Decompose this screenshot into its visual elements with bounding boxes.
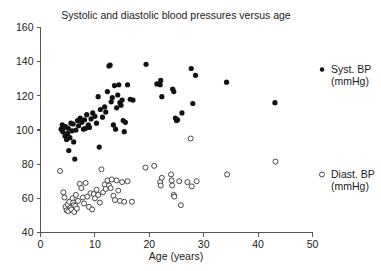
x-tick-label: 20 (143, 238, 155, 250)
data-point-systolic (71, 121, 76, 126)
data-point-systolic (224, 80, 229, 85)
data-point-systolic (112, 83, 117, 88)
data-point-diastolic (225, 172, 230, 177)
data-point-diastolic (169, 172, 174, 177)
data-point-diastolic (169, 178, 174, 183)
data-point-systolic (102, 104, 107, 109)
data-point-diastolic (58, 169, 63, 174)
data-point-systolic (171, 89, 176, 94)
chart-figure: Systolic and diastolic blood pressures v… (0, 0, 381, 271)
legend-label-diastolic: Diast. BP (331, 168, 375, 180)
data-point-systolic (189, 66, 194, 71)
data-point-diastolic (189, 184, 194, 189)
data-point-systolic (113, 127, 118, 132)
data-point-systolic (87, 125, 92, 130)
data-point-systolic (120, 98, 125, 103)
data-point-systolic (175, 117, 180, 122)
y-tick-label: 80 (22, 158, 34, 170)
data-point-systolic (159, 94, 164, 99)
x-axis-title-group: Age (years) (149, 250, 203, 262)
data-point-systolic (108, 62, 113, 67)
x-tick-label: 0 (38, 238, 44, 250)
data-point-diastolic (61, 190, 66, 195)
data-point-diastolic (177, 179, 182, 184)
data-point-diastolic (108, 186, 113, 191)
y-axis-ticks: 406080100120140160 (16, 21, 41, 238)
data-point-systolic (96, 94, 101, 99)
data-point-diastolic (96, 192, 101, 197)
data-point-diastolic (82, 201, 87, 206)
legend-label-systolic: Syst. BP (331, 63, 371, 75)
data-point-diastolic (170, 183, 175, 188)
data-point-systolic (118, 103, 123, 108)
data-point-diastolic (109, 177, 114, 182)
data-point-systolic (71, 139, 76, 144)
data-point-systolic (82, 117, 87, 122)
data-point-diastolic (94, 187, 99, 192)
series-systolic-points (59, 62, 278, 162)
data-point-diastolic (90, 207, 95, 212)
data-point-systolic (130, 98, 135, 103)
data-point-diastolic (99, 167, 104, 172)
data-point-systolic (190, 101, 195, 106)
data-point-systolic (103, 109, 108, 114)
data-point-systolic (158, 78, 163, 83)
x-axis-title: Age (years) (149, 250, 203, 262)
y-tick-label: 140 (16, 55, 34, 67)
legend-unit-systolic: (mmHg) (331, 75, 369, 87)
data-point-systolic (115, 92, 120, 97)
data-point-systolic (105, 89, 110, 94)
chart-title: Systolic and diastolic blood pressures v… (61, 9, 291, 21)
y-tick-label: 100 (16, 124, 34, 136)
data-point-diastolic (152, 163, 157, 168)
x-tick-label: 40 (252, 238, 264, 250)
data-point-systolic (67, 135, 72, 140)
data-point-systolic (84, 112, 89, 117)
data-point-systolic (73, 127, 78, 132)
scatter-plot: Systolic and diastolic blood pressures v… (0, 0, 381, 271)
data-point-systolic (179, 110, 184, 115)
data-point-diastolic (116, 188, 121, 193)
data-point-diastolic (194, 179, 199, 184)
data-point-diastolic (73, 192, 78, 197)
x-tick-label: 10 (89, 238, 101, 250)
data-point-systolic (114, 105, 119, 110)
data-point-diastolic (159, 175, 164, 180)
series-diastolic-points (58, 136, 278, 214)
data-point-systolic (97, 144, 102, 149)
data-point-diastolic (114, 178, 119, 183)
data-point-systolic (143, 62, 148, 67)
legend-marker-filled-circle (320, 67, 324, 71)
x-tick-label: 30 (198, 238, 210, 250)
data-point-diastolic (185, 180, 190, 185)
y-tick-label: 60 (22, 192, 34, 204)
x-tick-label: 50 (307, 238, 319, 250)
data-point-diastolic (76, 198, 81, 203)
data-point-diastolic (113, 198, 118, 203)
plot-title-group: Systolic and diastolic blood pressures v… (61, 9, 291, 21)
data-point-diastolic (122, 199, 127, 204)
data-point-systolic (123, 120, 128, 125)
data-point-diastolic (158, 183, 163, 188)
data-point-diastolic (120, 180, 125, 185)
chart-legend: Syst. BP(mmHg)Diast. BP(mmHg) (320, 63, 375, 192)
legend-unit-diastolic: (mmHg) (331, 180, 369, 192)
data-point-diastolic (62, 195, 67, 200)
data-point-systolic (94, 121, 99, 126)
data-point-systolic (98, 107, 103, 112)
data-point-diastolic (129, 199, 134, 204)
data-point-systolic (272, 100, 277, 105)
legend-marker-open-circle (320, 172, 325, 177)
x-axis-ticks: 01020304050 (38, 233, 319, 250)
y-tick-label: 120 (16, 90, 34, 102)
y-tick-label: 160 (16, 21, 34, 33)
data-point-diastolic (188, 136, 193, 141)
data-point-systolic (100, 115, 105, 120)
data-point-diastolic (79, 186, 84, 191)
data-point-systolic (116, 82, 121, 87)
data-point-systolic (110, 95, 115, 100)
data-point-diastolic (143, 165, 148, 170)
data-point-systolic (193, 73, 198, 78)
data-point-systolic (92, 114, 97, 119)
data-point-diastolic (74, 206, 79, 211)
